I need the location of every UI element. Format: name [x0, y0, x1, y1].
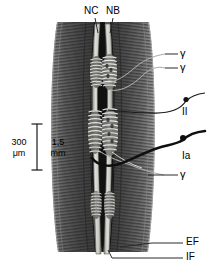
- label-extrafusal-fiber: EF: [186, 237, 199, 247]
- nuclear-bag-region-equator: [102, 108, 118, 156]
- afferent-II-terminal-bouton: [183, 97, 188, 102]
- label-afferent-II: II: [182, 107, 188, 117]
- annulospiral-coil-right-lower: [104, 191, 115, 219]
- label-gamma-top1: γ: [180, 48, 186, 59]
- label-gamma-lower: γ: [180, 169, 186, 180]
- scale-right-value: 1,5: [45, 137, 71, 147]
- muscle-spindle-illustration: [0, 0, 221, 273]
- label-intrafusal-fiber: IF: [186, 252, 195, 262]
- figure-canvas: NC NB γ γ II Ia γ EF IF 300 μm 1,5 mm: [0, 0, 221, 273]
- label-gamma-top2: γ: [180, 62, 186, 73]
- scale-left-value: 300: [6, 137, 32, 147]
- label-afferent-Ia: Ia: [182, 151, 190, 161]
- nuclear-bag-region-upper: [102, 54, 117, 90]
- scale-bar: [32, 124, 43, 170]
- afferent-Ia-terminal-bouton: [180, 135, 186, 141]
- label-nuclear-bag: NB: [106, 6, 120, 16]
- scale-right-unit: mm: [45, 148, 71, 158]
- label-nuclear-chain: NC: [84, 6, 98, 16]
- scale-left-unit: μm: [6, 148, 32, 158]
